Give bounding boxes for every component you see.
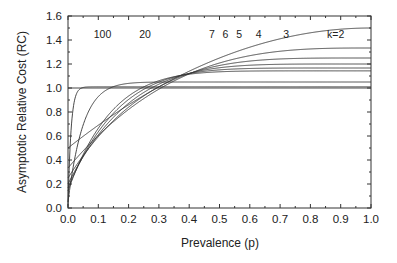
curve-label-k-100: 100 bbox=[94, 28, 112, 40]
x-tick-label: 0.2 bbox=[121, 213, 137, 225]
y-tick-label: 1.6 bbox=[46, 10, 62, 22]
y-tick-label: 1.0 bbox=[46, 82, 62, 94]
curve-label-k-6: 6 bbox=[223, 28, 229, 40]
x-tick-label: 0.0 bbox=[60, 213, 76, 225]
x-tick-label: 1.0 bbox=[363, 213, 379, 225]
curve-label-k-20: 20 bbox=[139, 28, 151, 40]
x-tick-label: 0.5 bbox=[212, 213, 228, 225]
y-tick-label: 0.2 bbox=[46, 178, 62, 190]
x-tick-label: 0.6 bbox=[242, 213, 258, 225]
x-tick-label: 0.7 bbox=[272, 213, 288, 225]
chart-canvas: 0.00.10.20.30.40.50.60.70.80.91.00.00.20… bbox=[0, 0, 397, 263]
x-tick-label: 0.1 bbox=[90, 213, 106, 225]
y-tick-label: 0.8 bbox=[46, 106, 62, 118]
x-tick-label: 0.4 bbox=[181, 213, 198, 225]
x-axis-title: Prevalence (p) bbox=[181, 236, 259, 250]
curve-k-3 bbox=[68, 48, 371, 168]
curve-labels: 1002076543k=2 bbox=[94, 28, 345, 40]
curve-label-k-5: 5 bbox=[236, 28, 242, 40]
curve-k-20 bbox=[68, 82, 371, 202]
curve-k-100 bbox=[68, 87, 371, 207]
y-tick-label: 0.4 bbox=[46, 154, 63, 166]
curve-label-k-2: k=2 bbox=[327, 28, 344, 40]
plot-frame bbox=[68, 16, 371, 208]
y-axis-title: Asymptotic Relative Cost (RC) bbox=[15, 31, 29, 193]
curve-label-k-3: 3 bbox=[283, 28, 289, 40]
x-tick-label: 0.3 bbox=[151, 213, 167, 225]
curve-label-k-7: 7 bbox=[209, 28, 215, 40]
y-tick-label: 0.0 bbox=[46, 202, 62, 214]
curve-label-k-4: 4 bbox=[256, 28, 262, 40]
y-tick-label: 1.4 bbox=[46, 34, 63, 46]
curve-k-4 bbox=[68, 58, 371, 178]
x-tick-label: 0.8 bbox=[302, 213, 318, 225]
plot-border bbox=[68, 16, 371, 208]
x-tick-label: 0.9 bbox=[333, 213, 349, 225]
curve-k-6 bbox=[68, 68, 371, 188]
curves bbox=[68, 28, 371, 207]
y-tick-label: 1.2 bbox=[46, 58, 62, 70]
axis-ticks: 0.00.10.20.30.40.50.60.70.80.91.00.00.20… bbox=[46, 10, 379, 225]
y-tick-label: 0.6 bbox=[46, 130, 62, 142]
curve-k-7 bbox=[68, 71, 371, 191]
